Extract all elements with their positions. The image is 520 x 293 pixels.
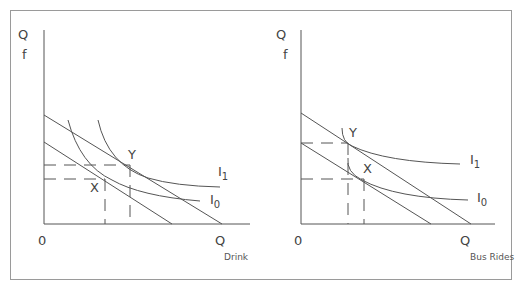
left-curve-i1-label: I1 bbox=[218, 164, 228, 179]
right-x-axis-label: Q bbox=[460, 233, 470, 248]
right-budget-upper bbox=[301, 113, 471, 224]
left-indifference-i1 bbox=[98, 120, 220, 187]
left-y-axis-sub: f bbox=[22, 47, 27, 62]
right-indifference-i1 bbox=[342, 128, 460, 164]
right-point-x: X bbox=[363, 161, 372, 176]
left-budget-upper bbox=[44, 115, 222, 224]
right-curve-i1-label: I1 bbox=[470, 152, 480, 167]
left-point-x: X bbox=[90, 180, 99, 195]
right-x-axis-sub: Bus Rides bbox=[470, 252, 514, 262]
diagram-canvas bbox=[0, 0, 520, 293]
right-point-y: Y bbox=[349, 125, 357, 140]
left-curve-i0-label: I0 bbox=[210, 192, 220, 207]
left-y-axis-label: Q bbox=[18, 27, 28, 42]
left-x-axis-sub: Drink bbox=[224, 252, 248, 262]
right-curve-i0-label: I0 bbox=[477, 190, 487, 205]
left-origin-label: 0 bbox=[38, 233, 46, 248]
right-origin-label: 0 bbox=[294, 233, 302, 248]
left-point-y: Y bbox=[128, 147, 136, 162]
right-y-axis-label: Q bbox=[276, 27, 286, 42]
right-y-axis-sub: f bbox=[283, 47, 288, 62]
left-x-axis-label: Q bbox=[215, 233, 225, 248]
